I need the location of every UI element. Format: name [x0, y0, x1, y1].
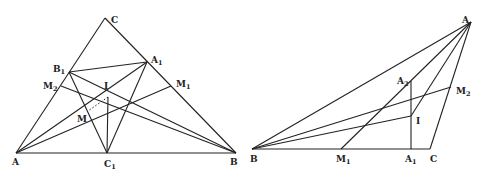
segment-a-i [411, 22, 471, 116]
point-label-c1: C1 [104, 159, 116, 171]
point-label-c: C [111, 15, 118, 25]
right-triangle-figure: ABCA1A2IM2M1 [250, 15, 471, 166]
point-label-b: B [230, 157, 238, 167]
point-label-a1: A1 [404, 154, 417, 166]
point-label-m1: M1 [176, 79, 191, 91]
point-label-m1: M1 [336, 154, 351, 166]
point-label-i: I [104, 81, 108, 91]
point-label-i: I [416, 116, 420, 126]
segment-i-c1 [107, 97, 108, 153]
segment-b-c [105, 18, 236, 153]
point-label-a: A [11, 157, 20, 167]
point-label-m: M [77, 114, 87, 124]
point-label-a: A [461, 15, 470, 25]
point-label-b: B [250, 154, 258, 164]
point-label-a1: A1 [150, 55, 163, 67]
point-label-a2: A2 [396, 76, 409, 88]
segment-b-b1 [69, 72, 236, 153]
point-label-c: C [430, 154, 437, 164]
geometry-diagram: ABCC1B1A1M2M1IM ABCA1A2IM2M1 [0, 0, 484, 194]
point-label-m2: M2 [43, 81, 58, 93]
segment-a-b [252, 22, 471, 149]
segment-b-m2 [252, 87, 451, 149]
point-label-m2: M2 [456, 86, 471, 98]
left-triangle-figure: ABCC1B1A1M2M1IM [11, 15, 238, 171]
segment-c-a [16, 18, 105, 153]
dashed-segment-i-m [88, 97, 108, 111]
segment-b-i [252, 116, 411, 149]
point-label-b1: B1 [53, 64, 65, 76]
